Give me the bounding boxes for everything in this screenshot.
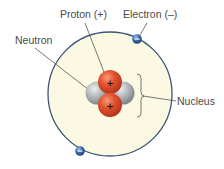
electron-label: Electron (–) [123,8,177,20]
electron-top-right [132,34,142,44]
electron-charge-mark [135,39,140,40]
proton-top-charge: + [106,78,114,88]
atom-diagram: + + Proton (+) Electron (–) Neutron Nucl… [0,0,224,169]
electron-bottom-left [75,146,85,156]
nucleus-label: Nucleus [177,95,215,107]
electron-leader-line [140,23,147,35]
proton-label: Proton (+) [60,8,107,20]
neutron-label: Neutron [15,34,53,46]
proton-bottom-charge: + [106,101,114,111]
electron-charge-mark [78,151,83,152]
